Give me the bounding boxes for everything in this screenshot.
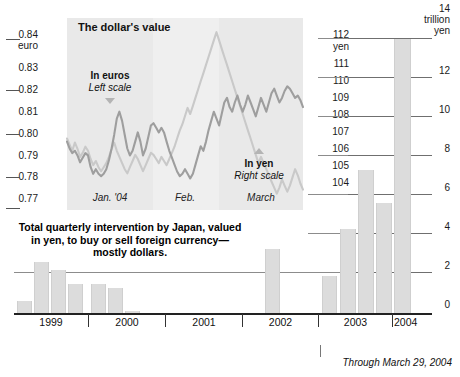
year-separator-2003-2004 — [392, 314, 393, 327]
gridline-14-ext — [318, 38, 348, 39]
year-label-2004: 2004 — [394, 316, 434, 328]
bar-2003-q1 — [322, 276, 337, 313]
gridline-10 — [347, 116, 432, 117]
euro-annotation-line2: Left scale — [72, 82, 148, 94]
bar-2003-q3 — [358, 170, 374, 313]
bar-1999-q3 — [51, 270, 66, 313]
bar-1999-q1 — [17, 301, 32, 313]
yen-annotation-pointer-icon — [254, 148, 264, 154]
year-label-2001: 2001 — [166, 316, 242, 328]
bar-2002-q1 — [265, 249, 280, 313]
bar-1999-q2 — [34, 262, 49, 313]
year-label-2003: 2003 — [319, 316, 392, 328]
month-label-february: Feb. — [152, 192, 218, 203]
gridline-6-ext — [308, 194, 348, 195]
gridline-14 — [347, 38, 432, 39]
bar-2000-q2 — [108, 288, 123, 313]
source-note-leader — [320, 345, 321, 357]
month-label-march: March — [220, 192, 302, 203]
gridline-8-ext — [318, 155, 348, 156]
newspaper-chart-figure: 0.84 euro 0.83 0.82 0.81 0.80 0.79 0.78 … — [0, 0, 460, 377]
gridline-12-ext — [318, 77, 348, 78]
month-label-january: Jan. '04 — [70, 192, 150, 203]
yen-annotation: In yen Right scale — [222, 158, 296, 182]
euro-annotation: In euros Left scale — [72, 70, 148, 94]
euro-annotation-pointer-icon — [105, 98, 115, 104]
bar-2003-q4 — [376, 203, 392, 313]
gridline-8 — [347, 155, 432, 156]
gridline-10-ext — [318, 116, 348, 117]
bar-2004-q1 — [394, 39, 411, 313]
trillion-unit-line2: yen — [404, 25, 450, 36]
trillion-unit-line1: trillion — [404, 14, 450, 25]
line-chart-title: The dollar's value — [78, 22, 170, 33]
yen-annotation-line1: In yen — [222, 158, 296, 170]
gridline-12 — [347, 77, 432, 78]
year-label-2000: 2000 — [89, 316, 165, 328]
bar-chart-baseline — [14, 313, 432, 315]
year-label-1999: 1999 — [14, 316, 88, 328]
bar-chart-caption-line2: in yen, to buy or sell foreign currency— — [14, 234, 246, 247]
year-label-2002: 2002 — [243, 316, 318, 328]
bar-2003-q2 — [340, 229, 356, 313]
yen-annotation-line2: Right scale — [222, 170, 296, 182]
bar-2000-q1 — [91, 284, 106, 313]
trillion-tick-14: 14 — [404, 3, 450, 14]
source-note: Through March 29, 2004 — [232, 357, 452, 368]
bar-chart-caption-line3: mostly dollars. — [14, 246, 246, 259]
euro-annotation-line1: In euros — [72, 70, 148, 82]
bar-1999-q4 — [68, 284, 83, 313]
bar-chart-caption-line1: Total quarterly intervention by Japan, v… — [14, 221, 246, 234]
bar-chart-caption: Total quarterly intervention by Japan, v… — [14, 221, 246, 259]
